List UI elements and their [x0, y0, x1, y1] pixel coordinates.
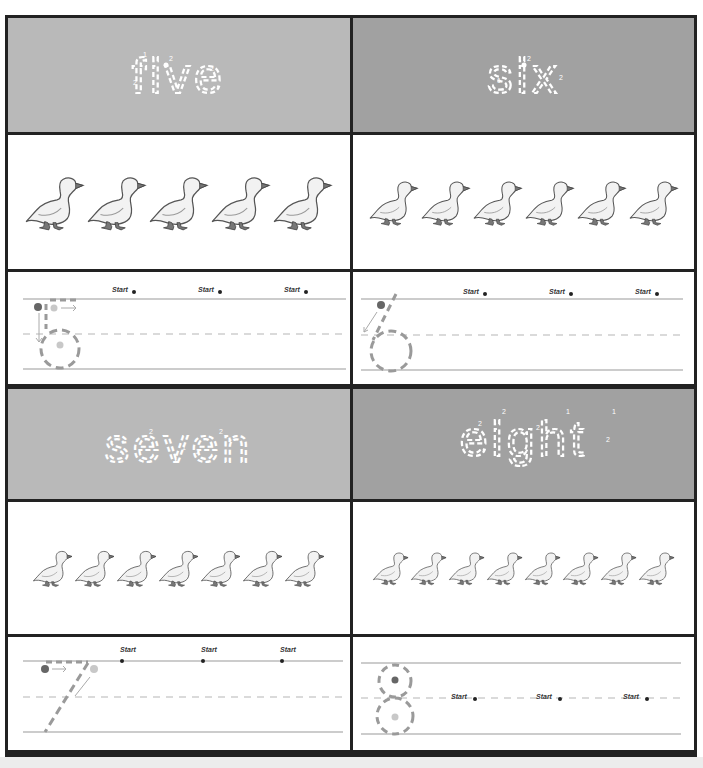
start-label: Start: [198, 286, 214, 293]
duck-icon: [74, 548, 116, 588]
start-dot-icon: [569, 292, 573, 296]
duck-icon: [638, 550, 676, 586]
traceable-word-five: five 1 2 2 2: [79, 35, 279, 115]
duck-icon: [472, 178, 524, 227]
start-dot-icon: [120, 659, 124, 663]
start-label: Start: [201, 646, 217, 653]
start-dot-icon: [473, 697, 477, 701]
start-dot-icon: [280, 659, 284, 663]
svg-text:2: 2: [219, 428, 223, 435]
duck-icon: [448, 550, 486, 586]
duck-icon: [524, 178, 576, 227]
traceable-word-eight: eight 2 2 2 1 1 2: [404, 394, 644, 494]
svg-text:1: 1: [182, 444, 186, 451]
start-dot-icon: [132, 290, 136, 294]
start-dot-icon: [655, 292, 659, 296]
duck-icon: [148, 173, 210, 232]
start-dot-icon: [483, 292, 487, 296]
trace-panel-six: Start Start Start: [353, 272, 694, 384]
svg-text:2: 2: [606, 436, 610, 443]
duck-row-eight: [372, 550, 676, 586]
duck-panel-six: [353, 135, 694, 269]
start-dot-icon: [201, 659, 205, 663]
duck-icon: [410, 550, 448, 586]
duck-row-five: [24, 173, 334, 232]
duck-icon: [32, 548, 74, 588]
svg-text:2: 2: [169, 55, 173, 62]
duck-icon: [158, 548, 200, 588]
cell-six: six 2 1 2 Start Sta: [353, 18, 694, 389]
svg-text:2: 2: [536, 424, 540, 431]
word-panel-five: five 1 2 2 2: [8, 18, 350, 132]
duck-icon: [600, 550, 638, 586]
duck-icon: [420, 178, 472, 227]
duck-panel-seven: [8, 502, 350, 634]
duck-icon: [372, 550, 410, 586]
start-label: Start: [463, 288, 479, 295]
start-label: Start: [635, 288, 651, 295]
trace-panel-eight: Start Start Start: [353, 637, 694, 750]
svg-text:six: six: [487, 48, 560, 104]
cell-five: five 1 2 2 2: [8, 18, 350, 389]
duck-row-six: [368, 178, 680, 227]
duck-icon: [628, 178, 680, 227]
duck-row-seven: [32, 548, 326, 588]
svg-text:1: 1: [566, 408, 570, 415]
svg-text:2: 2: [133, 79, 137, 86]
page-bottom-margin: [0, 757, 703, 768]
start-label: Start: [451, 693, 467, 700]
page-top-margin: [0, 0, 703, 15]
duck-icon: [368, 178, 420, 227]
svg-text:2: 2: [559, 74, 563, 81]
start-dot-icon: [304, 290, 308, 294]
duck-icon: [562, 550, 600, 586]
svg-text:seven: seven: [105, 419, 253, 472]
duck-icon: [284, 548, 326, 588]
word-panel-eight: eight 2 2 2 1 1 2: [353, 389, 694, 499]
svg-text:2: 2: [478, 420, 482, 427]
duck-icon: [486, 550, 524, 586]
start-label: Start: [112, 286, 128, 293]
svg-text:1: 1: [612, 408, 616, 415]
svg-text:1: 1: [497, 77, 501, 84]
start-dot-icon: [645, 697, 649, 701]
trace-panel-five: Start Start Start: [8, 272, 350, 384]
word-panel-six: six 2 1 2: [353, 18, 694, 132]
cell-seven: seven 2 2 1 2 S: [8, 389, 350, 755]
start-label: Start: [536, 693, 552, 700]
start-label: Start: [284, 286, 300, 293]
cell-eight: eight 2 2 2 1 1 2 Start: [353, 389, 694, 755]
svg-text:1: 1: [143, 51, 147, 58]
duck-icon: [210, 173, 272, 232]
word-panel-seven: seven 2 2 1 2: [8, 389, 350, 499]
duck-icon: [116, 548, 158, 588]
trace-panel-seven: Start Start Start: [8, 637, 350, 750]
duck-icon: [242, 548, 284, 588]
svg-text:2: 2: [149, 428, 153, 435]
start-dot-icon: [218, 290, 222, 294]
start-dot-icon: [558, 697, 562, 701]
svg-text:2: 2: [527, 55, 531, 62]
svg-text:2: 2: [196, 448, 200, 455]
duck-icon: [524, 550, 562, 586]
start-label: Start: [549, 288, 565, 295]
start-label: Start: [120, 646, 136, 653]
duck-panel-eight: [353, 502, 694, 634]
duck-icon: [576, 178, 628, 227]
duck-icon: [272, 173, 334, 232]
start-label: Start: [623, 693, 639, 700]
svg-text:2: 2: [210, 65, 214, 72]
duck-icon: [24, 173, 86, 232]
start-label: Start: [280, 646, 296, 653]
duck-panel-five: [8, 135, 350, 269]
duck-icon: [200, 548, 242, 588]
counting-worksheet: five 1 2 2 2: [5, 15, 697, 757]
traceable-word-seven: seven 2 2 1 2: [49, 404, 309, 484]
svg-text:2: 2: [502, 408, 506, 415]
duck-icon: [86, 173, 148, 232]
traceable-word-six: six 2 1 2: [424, 35, 624, 115]
